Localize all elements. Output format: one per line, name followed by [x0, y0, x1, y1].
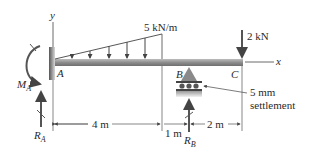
- beam-diagram: y 5 kN/m 2 kN x A B C 5 m: [0, 0, 312, 157]
- moment-label: MA: [16, 78, 31, 93]
- dimension-2m: 2 m: [191, 118, 240, 130]
- dim-4m-label: 4 m: [92, 118, 109, 130]
- distributed-load: 5 kN/m: [55, 21, 178, 59]
- reaction-a-label: RA: [33, 129, 46, 144]
- point-b-label: B: [176, 68, 183, 80]
- y-axis-label: y: [49, 9, 55, 21]
- fixed-wall: [49, 47, 55, 80]
- point-load-label: 2 kN: [247, 30, 269, 42]
- settlement-line1: 5 mm: [250, 86, 276, 98]
- y-axis: y: [49, 9, 55, 52]
- beam: [55, 59, 243, 66]
- settlement-line2: settlement: [250, 99, 295, 111]
- dimension-4m: 4 m: [55, 118, 160, 130]
- reaction-b-label: RB: [183, 134, 196, 149]
- moment-reaction-a: MA: [16, 44, 40, 93]
- dim-1m-label: 1 m: [165, 127, 182, 139]
- point-c-label: C: [231, 68, 239, 80]
- reaction-force-a: RA: [33, 92, 46, 144]
- reaction-force-b: RB: [183, 100, 196, 149]
- dim-2m-label: 2 m: [207, 118, 224, 130]
- point-a-label: A: [56, 67, 64, 79]
- x-axis-label: x: [275, 55, 281, 67]
- x-axis: x: [245, 55, 281, 67]
- settlement-note: 5 mm settlement: [204, 86, 295, 111]
- point-load-c: 2 kN: [242, 30, 269, 57]
- distributed-load-label: 5 kN/m: [144, 21, 178, 33]
